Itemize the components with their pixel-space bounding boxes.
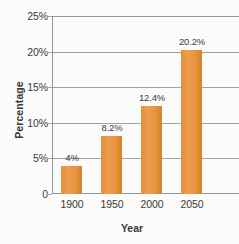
y-tick-label: 20% (18, 46, 48, 58)
bar (101, 136, 122, 194)
y-tick-label: 15% (18, 81, 48, 93)
bar-value-label: 8.2% (102, 122, 123, 133)
bar-chart: Percentage 05%10%15%20%25% 4%8.2%12.4%20… (0, 0, 239, 244)
y-axis-tick-labels: 05%10%15%20%25% (18, 0, 48, 244)
y-tick-label: 5% (18, 152, 48, 164)
bar-value-label: 12.4% (139, 92, 165, 103)
bar-group: 12.4% (132, 16, 172, 194)
bar (61, 166, 82, 194)
y-tick-label: 25% (18, 10, 48, 22)
x-tick-label: 1900 (52, 198, 92, 210)
bar-group: 20.2% (172, 16, 212, 194)
bar (141, 106, 162, 194)
bars: 4%8.2%12.4%20.2% (52, 16, 212, 194)
bar-value-label: 20.2% (179, 36, 205, 47)
bar-group: 4% (52, 16, 92, 194)
x-tick-label: 2000 (132, 198, 172, 210)
x-tick-label: 2050 (172, 198, 212, 210)
x-tick-label: 1950 (92, 198, 132, 210)
bar (181, 50, 202, 194)
y-tick-label: 0 (18, 188, 48, 200)
bar-group: 8.2% (92, 16, 132, 194)
y-tick-mark (47, 194, 52, 195)
plot-area: 4%8.2%12.4%20.2% (52, 16, 212, 194)
y-tick-label: 10% (18, 117, 48, 129)
bar-value-label: 4% (65, 152, 78, 163)
x-axis-tick-labels: 1900195020002050 (52, 198, 212, 214)
x-axis-title: Year (52, 222, 212, 234)
